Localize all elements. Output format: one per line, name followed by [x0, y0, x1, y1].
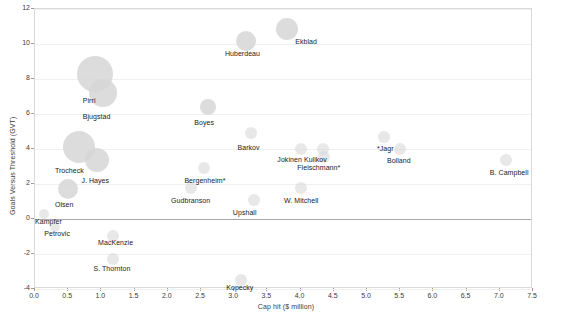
data-point-label: J. Hayes [81, 177, 109, 184]
data-point-bubble [295, 182, 307, 194]
data-point-bubble [500, 154, 512, 166]
data-point-label: Bergenheim* [184, 177, 225, 184]
x-tick-label: 1.0 [85, 292, 115, 299]
x-tick-mark [532, 288, 533, 291]
gridline [35, 149, 531, 150]
gridline [35, 184, 531, 185]
x-tick-label: 5.0 [351, 292, 381, 299]
data-point-label: Bolland [387, 157, 411, 164]
data-point-label: Bjugstad [83, 113, 111, 120]
x-tick-label: 2.0 [152, 292, 182, 299]
x-tick-label: 3.5 [251, 292, 281, 299]
x-tick-label: 4.0 [285, 292, 315, 299]
data-point-bubble [85, 148, 109, 172]
x-tick-label: 0.5 [52, 292, 82, 299]
data-point-label: S. Thornton [93, 265, 130, 272]
data-point-label: B. Campbell [490, 169, 529, 176]
y-tick-label: 12 [8, 4, 30, 11]
data-point-label: Trocheck [55, 167, 84, 174]
data-point-label: MacKenzie [98, 239, 133, 246]
x-tick-label: 7.5 [517, 292, 547, 299]
data-point-label: Fleischmann* [297, 164, 340, 171]
gridline [35, 289, 531, 290]
y-tick-label: 8 [8, 74, 30, 81]
gridline [35, 9, 531, 10]
clipped-title-region [34, 0, 532, 6]
zero-reference-line [35, 219, 531, 220]
data-point-bubble [107, 253, 119, 265]
data-point-label: Olsen [55, 201, 74, 208]
data-point-label: Pirri [83, 97, 96, 104]
data-point-label: Gudbranson [171, 197, 210, 204]
x-tick-label: 7.0 [484, 292, 514, 299]
y-tick-label: 2 [8, 179, 30, 186]
data-point-label: Ekblad [295, 38, 317, 45]
data-point-label: Kulikov [304, 156, 327, 163]
x-tick-label: 2.5 [185, 292, 215, 299]
y-tick-label: -4 [8, 284, 30, 291]
data-point-label: *Jagr [377, 145, 394, 152]
x-tick-label: 5.5 [384, 292, 414, 299]
y-tick-label: 10 [8, 39, 30, 46]
x-tick-label: 1.5 [119, 292, 149, 299]
y-tick-label: -2 [8, 249, 30, 256]
data-point-bubble [295, 143, 307, 155]
x-tick-label: 3.0 [218, 292, 248, 299]
y-axis-title: Goals Versus Threshold (GVT) [9, 117, 16, 215]
data-point-bubble [58, 179, 78, 199]
data-point-bubble [236, 31, 256, 51]
data-point-bubble [276, 18, 298, 40]
x-axis-title: Cap hit ($ million) [0, 303, 572, 310]
y-tick-label: 6 [8, 109, 30, 116]
data-point-bubble [198, 162, 210, 174]
data-point-bubble [248, 194, 260, 206]
data-point-label: W. Mitchell [284, 197, 318, 204]
y-tick-label: 0 [8, 214, 30, 221]
data-point-label: Jokinen [277, 156, 301, 163]
data-point-label: Barkov [238, 144, 260, 151]
x-tick-label: 6.5 [451, 292, 481, 299]
x-tick-label: 0.0 [19, 292, 49, 299]
data-point-bubble [378, 131, 390, 143]
gridline [35, 44, 531, 45]
data-point-label: Petrovic [44, 230, 70, 237]
y-tick-label: 4 [8, 144, 30, 151]
data-point-bubble [200, 99, 216, 115]
data-point-label: Huberdeau [225, 50, 260, 57]
scatter-chart: Goals Versus Threshold (GVT) Cap hit ($ … [0, 0, 572, 316]
data-point-label: Upshall [233, 209, 257, 216]
data-point-bubble [394, 143, 406, 155]
plot-area: EkbladHuberdeauPirriBjugstadBoyesBarkov*… [34, 8, 532, 288]
data-point-bubble [245, 127, 257, 139]
data-point-label: Boyes [194, 119, 214, 126]
x-tick-label: 6.0 [417, 292, 447, 299]
x-tick-label: 4.5 [318, 292, 348, 299]
data-point-label: Kopecky [226, 284, 253, 291]
data-point-label: Kampfer [35, 218, 62, 225]
